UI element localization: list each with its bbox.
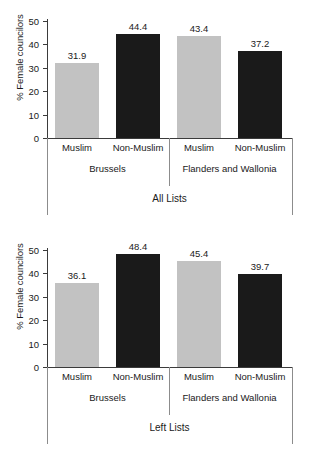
y-tick-label-10: 10	[0, 111, 39, 121]
category-row-left: MuslimNon-MuslimMuslimNon-Muslim	[47, 370, 292, 390]
chart-title-left: Left Lists	[47, 422, 292, 433]
bar	[55, 63, 99, 138]
bar	[116, 254, 160, 367]
chart-title-all: All Lists	[47, 193, 292, 204]
plot-area-left: 36.148.445.439.7	[47, 250, 292, 367]
bar-value-label: 36.1	[47, 271, 107, 281]
bar	[177, 36, 221, 138]
figure-root: % Female councilors 01020304050 31.944.4…	[0, 0, 309, 457]
bar-value-label: 44.4	[108, 22, 168, 32]
group-label: Flanders and Wallonia	[169, 162, 291, 176]
group-label: Brussels	[47, 391, 169, 405]
chart-all-lists: % Female councilors 01020304050 31.944.4…	[0, 0, 309, 228]
bar-value-label: 39.7	[230, 262, 290, 272]
bar-value-label: 48.4	[108, 242, 168, 252]
category-row-all: MuslimNon-MuslimMuslimNon-Muslim	[47, 141, 292, 161]
y-tick-label-20: 20	[0, 316, 39, 326]
bar-value-label: 31.9	[47, 51, 107, 61]
group-label: Brussels	[47, 162, 169, 176]
category-label: Non-Muslim	[220, 141, 300, 155]
y-axis-title-left: % Female councilors	[14, 222, 25, 352]
y-tick-label-40: 40	[0, 269, 39, 279]
category-label: Non-Muslim	[220, 370, 300, 384]
group-row-all: BrusselsFlanders and Wallonia	[47, 162, 292, 182]
y-tick-label-50: 50	[0, 17, 39, 27]
bar	[177, 261, 221, 367]
bar	[116, 34, 160, 138]
y-tick-label-10: 10	[0, 340, 39, 350]
bar-value-label: 45.4	[169, 249, 229, 259]
group-label: Flanders and Wallonia	[169, 391, 291, 405]
y-tick-label-0: 0	[0, 134, 39, 144]
y-tick-label-50: 50	[0, 246, 39, 256]
y-tick-label-0: 0	[0, 363, 39, 373]
plot-area-all: 31.944.443.437.2	[47, 21, 292, 138]
y-tick-label-30: 30	[0, 293, 39, 303]
bar	[238, 51, 282, 138]
bar	[55, 283, 99, 367]
bar-value-label: 43.4	[169, 24, 229, 34]
y-tick-label-40: 40	[0, 40, 39, 50]
group-row-left: BrusselsFlanders and Wallonia	[47, 391, 292, 411]
bar-value-label: 37.2	[230, 39, 290, 49]
y-tick-label-20: 20	[0, 87, 39, 97]
y-tick-label-30: 30	[0, 64, 39, 74]
chart-left-lists: % Female councilors 01020304050 36.148.4…	[0, 229, 309, 457]
bar	[238, 274, 282, 367]
